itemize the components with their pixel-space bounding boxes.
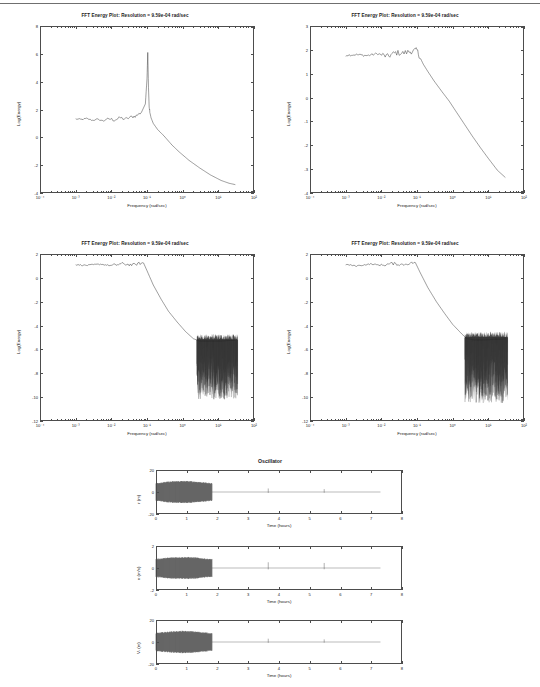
fft-panel-bottom-right: FFT Energy Plot: Resolution = 9.59e-04 r… <box>276 236 534 451</box>
oscillator-panel-r: Oscillator012345678Time (hours)200-20r (… <box>130 458 410 536</box>
sheet-top-rule <box>0 3 540 4</box>
fft-panel-top-left: FFT Energy Plot: Resolution = 9.59e-04 r… <box>6 8 264 223</box>
oscillator-panel-vr: 012345678Time (hours)200-20Vᵣ (m) <box>130 614 410 686</box>
fft-top-right-plot-area <box>276 8 534 223</box>
osc-v-plot-area <box>130 540 410 612</box>
oscillator-panel-v: 012345678Time (hours)20-2v (m/s) <box>130 540 410 612</box>
fft-panel-bottom-left: FFT Energy Plot: Resolution = 9.59e-04 r… <box>6 236 264 451</box>
fft-bottom-left-plot-area <box>6 236 264 451</box>
osc-vr-plot-area <box>130 614 410 686</box>
fft-bottom-right-plot-area <box>276 236 534 451</box>
osc-r-plot-area <box>130 458 410 536</box>
fft-top-left-plot-area <box>6 8 264 223</box>
fft-panel-top-right: FFT Energy Plot: Resolution = 9.59e-04 r… <box>276 8 534 223</box>
